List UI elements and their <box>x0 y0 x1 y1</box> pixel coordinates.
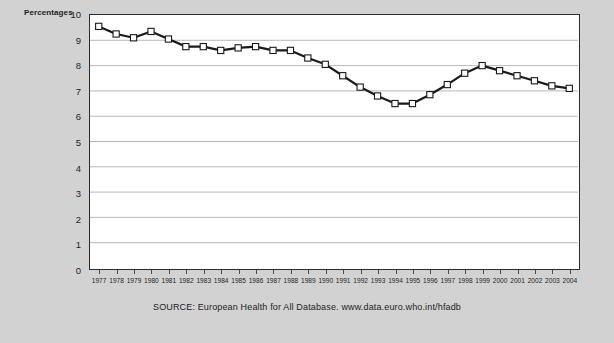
x-tick-label: 1978 <box>109 277 124 284</box>
data-point-marker <box>549 83 555 89</box>
line-chart-svg <box>90 15 578 268</box>
data-point-marker <box>427 92 433 98</box>
x-tick-mark <box>169 270 170 274</box>
x-tick-mark <box>273 270 274 274</box>
x-tick-label: 1982 <box>179 277 194 284</box>
data-point-marker <box>566 85 572 91</box>
x-tick-mark <box>99 270 100 274</box>
x-tick-mark <box>117 270 118 274</box>
y-tick-label: 1 <box>51 239 81 250</box>
chart-figure: Percentages 109876543210 197719781979198… <box>0 0 614 343</box>
x-tick-mark <box>552 270 553 274</box>
plot-wrapper <box>89 14 580 270</box>
x-tick-label: 2001 <box>510 277 525 284</box>
y-tick-label: 7 <box>51 85 81 96</box>
x-tick-label: 1993 <box>371 277 386 284</box>
x-tick-mark <box>291 270 292 274</box>
x-tick-label: 2003 <box>545 277 560 284</box>
x-tick-mark <box>518 270 519 274</box>
x-tick-mark <box>326 270 327 274</box>
x-tick-mark <box>396 270 397 274</box>
y-tick-label: 3 <box>51 188 81 199</box>
data-point-marker <box>392 100 398 106</box>
x-tick-mark <box>535 270 536 274</box>
y-tick-label: 8 <box>51 60 81 71</box>
data-point-marker <box>235 45 241 51</box>
x-tick-label: 1988 <box>284 277 299 284</box>
x-tick-label: 1996 <box>423 277 438 284</box>
source-note: SOURCE: European Health for All Database… <box>0 302 614 312</box>
x-tick-mark <box>448 270 449 274</box>
x-tick-label: 1977 <box>92 277 107 284</box>
x-tick-label: 1990 <box>318 277 333 284</box>
x-tick-mark <box>465 270 466 274</box>
x-tick-label: 1980 <box>144 277 159 284</box>
data-point-marker <box>183 44 189 50</box>
data-point-marker <box>96 23 102 29</box>
data-point-marker <box>270 47 276 53</box>
data-point-marker <box>357 84 363 90</box>
data-point-marker <box>305 55 311 61</box>
x-tick-label: 1989 <box>301 277 316 284</box>
data-point-marker <box>514 73 520 79</box>
y-tick-label: 2 <box>51 213 81 224</box>
x-tick-label: 1995 <box>406 277 421 284</box>
y-tick-label: 5 <box>51 137 81 148</box>
x-tick-label: 1986 <box>249 277 264 284</box>
data-point-marker <box>444 81 450 87</box>
x-tick-mark <box>413 270 414 274</box>
data-point-marker <box>113 31 119 37</box>
y-tick-label: 6 <box>51 111 81 122</box>
x-tick-mark <box>343 270 344 274</box>
x-tick-label: 2000 <box>493 277 508 284</box>
data-point-marker <box>409 100 415 106</box>
data-point-marker <box>374 93 380 99</box>
x-tick-mark <box>308 270 309 274</box>
data-point-marker <box>496 68 502 74</box>
y-tick-label: 0 <box>51 265 81 276</box>
x-tick-label: 1992 <box>353 277 368 284</box>
x-tick-mark <box>361 270 362 274</box>
x-tick-label: 2002 <box>528 277 543 284</box>
data-point-marker <box>287 47 293 53</box>
data-point-marker <box>165 36 171 42</box>
data-point-marker <box>148 28 154 34</box>
x-tick-mark <box>221 270 222 274</box>
x-tick-mark <box>186 270 187 274</box>
x-tick-label: 1994 <box>388 277 403 284</box>
x-tick-label: 1985 <box>231 277 246 284</box>
x-tick-label: 1981 <box>162 277 177 284</box>
x-tick-label: 1998 <box>458 277 473 284</box>
x-tick-mark <box>378 270 379 274</box>
data-point-marker <box>200 44 206 50</box>
x-tick-mark <box>151 270 152 274</box>
data-point-marker <box>462 70 468 76</box>
x-tick-mark <box>256 270 257 274</box>
plot-area <box>89 14 580 270</box>
data-point-marker <box>218 47 224 53</box>
data-point-marker <box>322 61 328 67</box>
x-tick-mark <box>239 270 240 274</box>
x-tick-mark <box>430 270 431 274</box>
x-tick-mark <box>134 270 135 274</box>
data-point-marker <box>340 73 346 79</box>
x-tick-label: 1987 <box>266 277 281 284</box>
y-tick-label: 4 <box>51 162 81 173</box>
x-tick-mark <box>570 270 571 274</box>
x-tick-mark <box>483 270 484 274</box>
y-tick-label: 10 <box>51 9 81 20</box>
data-point-marker <box>479 63 485 69</box>
x-tick-label: 1997 <box>440 277 455 284</box>
x-tick-label: 1984 <box>214 277 229 284</box>
data-point-marker <box>252 44 258 50</box>
y-tick-label: 9 <box>51 34 81 45</box>
x-tick-mark <box>204 270 205 274</box>
x-tick-label: 1991 <box>336 277 351 284</box>
data-point-marker <box>130 35 136 41</box>
data-point-marker <box>531 78 537 84</box>
x-tick-label: 1999 <box>475 277 490 284</box>
x-tick-label: 2004 <box>563 277 578 284</box>
x-tick-label: 1983 <box>196 277 211 284</box>
x-tick-mark <box>500 270 501 274</box>
x-tick-label: 1979 <box>127 277 142 284</box>
